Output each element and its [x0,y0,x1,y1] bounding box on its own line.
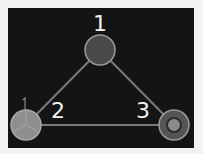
node-1-label: 1 [93,11,107,36]
node-2-label: 2 [51,98,65,123]
node-1[interactable]: 1 [85,11,115,65]
node-2[interactable]: 2 [11,98,65,140]
node-3-label: 3 [136,98,150,123]
graph-diagram: 1 2 3 [0,0,203,154]
node-3[interactable]: 3 [136,98,189,140]
target-icon [167,118,181,132]
